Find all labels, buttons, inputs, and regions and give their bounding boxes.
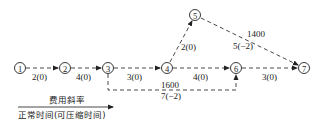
svg-text:5: 5 (193, 11, 197, 21)
edge-label-5-7-bottom: 5(−2) (233, 41, 253, 51)
legend-bottom-label: 正常时间(可压缩时间) (18, 110, 106, 120)
node-4: 4 (162, 63, 173, 74)
edge-label-2-3: 4(0) (76, 72, 91, 82)
edge-label-1-2: 2(0) (32, 72, 47, 82)
svg-text:7: 7 (302, 64, 306, 74)
svg-text:6: 6 (234, 64, 238, 74)
svg-text:1: 1 (18, 64, 22, 74)
legend-top-label: 费用斜率 (49, 95, 85, 105)
edge-label-4-6: 4(0) (193, 72, 208, 82)
node-1: 1 (15, 63, 26, 74)
node-6: 6 (231, 63, 242, 74)
node-5: 5 (190, 10, 201, 21)
edge-label-3-6-top: 1600 (161, 80, 180, 90)
edge-label-3-4: 3(0) (127, 72, 142, 82)
svg-text:2: 2 (63, 64, 67, 74)
node-7: 7 (299, 63, 310, 74)
edge-label-3-6-bottom: 7(−2) (161, 91, 181, 101)
node-3: 3 (103, 63, 114, 74)
svg-text:3: 3 (106, 64, 110, 74)
node-2: 2 (60, 63, 71, 74)
edge-label-6-7: 3(0) (262, 72, 277, 82)
edge-label-4-5: 2(0) (181, 42, 196, 52)
network-diagram: 2(0) 4(0) 3(0) 2(0) 1400 5(−2) 4(0) 3(0)… (0, 0, 319, 124)
edge-label-5-7-top: 1400 (247, 29, 266, 39)
